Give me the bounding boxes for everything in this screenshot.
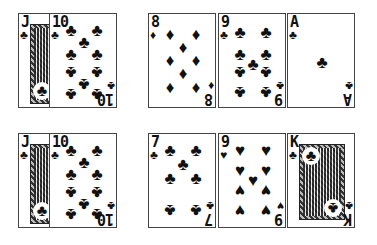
club-icon: ♣ — [187, 170, 205, 187]
card-ten-of-clubs[interactable]: 10 ♣ ♣ ♣ ♣ ♣ ♣ ♣ ♣ ♣ ♣ ♣ ♣ 10 — [49, 13, 117, 108]
card-rank: 9 — [275, 212, 283, 226]
card-seven-of-clubs[interactable]: 7 ♣ ♣ ♣ ♣ ♣ ♣ ♣ ♣ ♣ 7 — [148, 133, 216, 228]
card-nine-of-hearts[interactable]: 9 ♥ ♥ ♥ ♥ ♥ ♥ ♥ ♥ ♥ ♥ ♥ 9 — [218, 133, 286, 228]
heart-icon: ♥ — [220, 149, 227, 161]
card-rank: K — [290, 135, 298, 149]
club-icon: ♣ — [302, 147, 320, 165]
card-jack-of-clubs[interactable]: J ♣ ♣ — [18, 133, 52, 228]
club-icon: ♣ — [231, 64, 249, 81]
card-jack-of-clubs[interactable]: J ♣ ♣ — [18, 13, 52, 108]
card-rank: K — [344, 212, 352, 226]
club-icon: ♣ — [220, 29, 228, 41]
card-rank: 10 — [98, 212, 114, 226]
heart-icon: ♥ — [257, 182, 275, 199]
card-rank: 10 — [98, 92, 114, 106]
card-rank: J — [21, 135, 29, 149]
card-rank: 8 — [205, 92, 213, 106]
card-rank: 7 — [205, 212, 213, 226]
club-icon: ♣ — [289, 29, 297, 41]
diamond-icon: ♦ — [187, 79, 205, 96]
club-icon: ♣ — [88, 46, 106, 63]
card-rank: 7 — [151, 135, 159, 149]
club-icon: ♣ — [231, 24, 249, 41]
club-icon: ♣ — [51, 29, 59, 41]
club-icon: ♣ — [187, 202, 205, 219]
heart-icon: ♥ — [231, 142, 249, 159]
card-rank: 8 — [151, 15, 159, 29]
card-ace-of-clubs[interactable]: A ♣ ♣ ♣ A — [287, 13, 355, 108]
club-icon: ♣ — [324, 199, 342, 217]
card-ten-of-clubs[interactable]: 10 ♣ ♣ ♣ ♣ ♣ ♣ ♣ ♣ ♣ ♣ ♣ ♣ 10 — [49, 133, 117, 228]
heart-icon: ♥ — [231, 202, 249, 219]
card-rank: 9 — [221, 15, 229, 29]
club-icon: ♣ — [62, 86, 80, 103]
club-icon: ♣ — [62, 166, 80, 183]
card-rank: 9 — [275, 92, 283, 106]
club-icon: ♣ — [20, 149, 28, 161]
card-rank: J — [21, 15, 29, 29]
club-icon: ♣ — [51, 149, 59, 161]
heart-icon: ♥ — [257, 142, 275, 159]
diamond-icon: ♦ — [150, 29, 156, 41]
club-icon: ♣ — [257, 64, 275, 81]
club-icon: ♣ — [231, 84, 249, 101]
card-rank: A — [290, 15, 298, 29]
card-king-of-clubs[interactable]: K ♣ ♣ ♣ ♣ K — [287, 133, 355, 228]
card-nine-of-clubs[interactable]: 9 ♣ ♣ ♣ ♣ ♣ ♣ ♣ ♣ ♣ ♣ ♣ 9 — [218, 13, 286, 108]
club-icon: ♣ — [313, 54, 331, 71]
heart-icon: ♥ — [231, 182, 249, 199]
club-icon: ♣ — [150, 149, 158, 161]
club-icon: ♣ — [257, 84, 275, 101]
king-face-art: ♣ ♣ — [299, 144, 345, 220]
club-icon: ♣ — [62, 46, 80, 63]
club-icon: ♣ — [88, 166, 106, 183]
club-icon: ♣ — [257, 24, 275, 41]
card-rank: 9 — [221, 135, 229, 149]
card-rank: A — [344, 92, 352, 106]
heart-icon: ♥ — [257, 202, 275, 219]
club-icon: ♣ — [289, 149, 297, 161]
club-icon: ♣ — [62, 206, 80, 223]
card-eight-of-diamonds[interactable]: 8 ♦ ♦ ♦ ♦ ♦ ♦ ♦ ♦ ♦ ♦ 8 — [148, 13, 216, 108]
club-icon: ♣ — [20, 29, 28, 41]
club-icon: ♣ — [161, 202, 179, 219]
diamond-icon: ♦ — [161, 79, 179, 96]
club-icon: ♣ — [161, 170, 179, 187]
